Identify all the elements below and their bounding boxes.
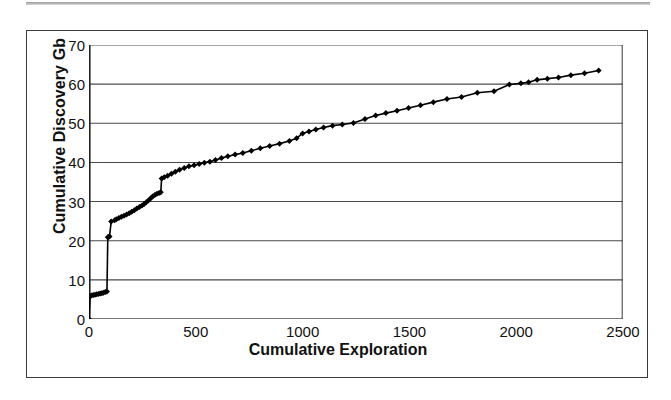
series-markers-cumulative-discovery [89, 67, 602, 319]
series-line-cumulative-discovery [89, 70, 599, 319]
chart-figure: Cumulative Discovery Gb 010203040506070 … [26, 30, 648, 378]
x-axis-title: Cumulative Exploration [27, 341, 649, 359]
line-chart-svg [89, 45, 623, 319]
y-tick-label: 10 [45, 271, 85, 288]
gridlines [89, 45, 623, 319]
axis-lines [90, 45, 622, 319]
y-tick-label: 50 [45, 115, 85, 132]
x-tick-label: 2500 [593, 323, 653, 340]
plot-area [89, 45, 623, 319]
page-horizontal-rule [26, 2, 650, 5]
x-tick-label: 1000 [273, 323, 333, 340]
x-tick-label: 2000 [486, 323, 546, 340]
x-tick-label: 1500 [379, 323, 439, 340]
y-axis-tick-labels: 010203040506070 [41, 45, 85, 319]
y-tick-label: 40 [45, 154, 85, 171]
y-tick-label: 70 [45, 37, 85, 54]
x-tick-label: 0 [59, 323, 119, 340]
y-tick-label: 20 [45, 232, 85, 249]
y-tick-label: 60 [45, 76, 85, 93]
x-tick-label: 500 [166, 323, 226, 340]
y-tick-label: 30 [45, 193, 85, 210]
